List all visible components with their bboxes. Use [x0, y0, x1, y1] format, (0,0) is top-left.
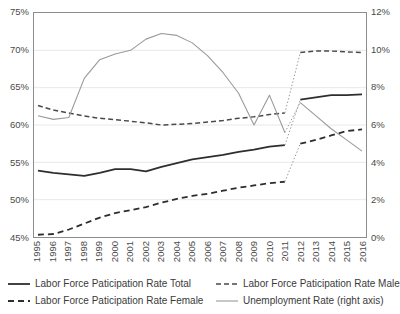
x-axis-tick: 1997 [63, 241, 73, 262]
left-axis-tick: 50% [0, 195, 29, 205]
legend-label: Labor Force Paticipation Rate Total [35, 278, 191, 289]
x-axis-tick: 1996 [48, 241, 58, 262]
legend-swatch-icon [216, 296, 238, 306]
x-axis-tick: 2004 [172, 241, 182, 262]
x-axis-tick: 2006 [203, 241, 213, 262]
x-axis-tick: 1999 [94, 241, 104, 262]
x-axis-tick: 2013 [311, 241, 321, 262]
legend-swatch-icon [8, 296, 30, 306]
legend-item[interactable]: Labor Force Paticipation Rate Female [8, 295, 203, 306]
right-axis-tick: 10% [371, 45, 400, 55]
x-axis-tick: 2000 [110, 241, 120, 262]
left-axis-tick: 65% [0, 82, 29, 92]
left-axis-tick: 70% [0, 45, 29, 55]
legend-item[interactable]: Labor Force Paticipation Rate Total [8, 278, 191, 289]
x-axis-tick: 2015 [342, 241, 352, 262]
right-axis-tick: 2% [371, 195, 400, 205]
series-line [38, 145, 285, 176]
x-axis-tick: 2016 [358, 241, 368, 262]
x-axis-tick: 2007 [218, 241, 228, 262]
legend-label: Unemployment Rate (right axis) [243, 295, 384, 306]
series-line [300, 129, 362, 143]
legend-item[interactable]: Unemployment Rate (right axis) [216, 295, 384, 306]
chart-legend: Labor Force Paticipation Rate TotalLabor… [8, 276, 392, 310]
x-axis-tick: 2014 [327, 241, 337, 262]
series-break-connector [285, 53, 300, 113]
series-line [300, 51, 362, 52]
series-lines [34, 13, 366, 237]
legend-label: Labor Force Paticipation Rate Male [243, 278, 400, 289]
x-axis-tick: 2002 [141, 241, 151, 262]
x-axis-tick: 1998 [79, 241, 89, 262]
plot-area [33, 12, 367, 238]
x-axis-tick: 2005 [187, 241, 197, 262]
line-chart: 45%50%55%60%65%70%75% 0%2%4%6%8%10%12% 1… [0, 0, 400, 314]
left-axis-tick: 55% [0, 158, 29, 168]
x-axis-tick: 2009 [249, 241, 259, 262]
left-axis-tick: 75% [0, 7, 29, 17]
x-axis-tick: 2012 [296, 241, 306, 262]
legend-label: Labor Force Paticipation Rate Female [35, 295, 203, 306]
series-line [300, 94, 362, 99]
right-axis-tick: 12% [371, 7, 400, 17]
legend-swatch-icon [8, 279, 30, 289]
legend-row: Labor Force Paticipation Rate TotalLabor… [8, 276, 392, 291]
legend-row: Labor Force Paticipation Rate FemaleUnem… [8, 293, 392, 308]
left-axis-tick: 60% [0, 120, 29, 130]
series-line [38, 182, 285, 235]
x-axis-tick: 2011 [280, 241, 290, 261]
x-axis-tick: 2010 [265, 241, 275, 262]
x-axis-tick: 2008 [234, 241, 244, 262]
right-axis-tick: 4% [371, 158, 400, 168]
x-axis-tick: 2003 [156, 241, 166, 262]
left-axis-tick: 45% [0, 233, 29, 243]
series-line [38, 34, 285, 133]
x-axis-tick: 2001 [125, 241, 135, 262]
legend-item[interactable]: Labor Force Paticipation Rate Male [216, 278, 400, 289]
series-line [38, 106, 285, 125]
right-axis-tick: 8% [371, 82, 400, 92]
right-axis-tick: 0% [371, 233, 400, 243]
series-break-connector [285, 103, 300, 133]
x-axis-tick: 1995 [32, 241, 42, 262]
right-axis-tick: 6% [371, 120, 400, 130]
series-line [300, 103, 362, 152]
legend-swatch-icon [216, 279, 238, 289]
